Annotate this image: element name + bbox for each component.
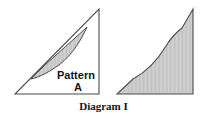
rearranged-shape-outline [117, 9, 193, 94]
diagram-page: Pattern A Diagram I [0, 0, 207, 119]
left-figure-group [15, 9, 99, 94]
right-triangle-outline [15, 9, 99, 94]
right-figure-group [117, 9, 193, 94]
diagram-caption: Diagram I [0, 100, 207, 112]
pattern-label-word: Pattern [57, 70, 95, 81]
pattern-label-letter: A [74, 82, 82, 93]
